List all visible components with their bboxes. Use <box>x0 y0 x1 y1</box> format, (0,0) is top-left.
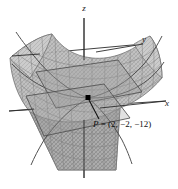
point-label: P = (2, −2, −12) <box>92 119 151 129</box>
point-label-coords: 2, −2, −12 <box>111 119 148 129</box>
x-axis-label: x <box>164 98 169 108</box>
point-label-close: ) <box>148 119 151 129</box>
saddle-surface <box>10 32 164 172</box>
z-axis-label: z <box>81 3 86 13</box>
point-marker <box>86 95 91 100</box>
figure-canvas: z y x P = (2, −2, −12) <box>0 0 178 189</box>
surface-figure: z y x P = (2, −2, −12) <box>0 0 178 189</box>
point-label-equals: = ( <box>99 119 112 129</box>
y-axis-label: y <box>141 34 146 44</box>
